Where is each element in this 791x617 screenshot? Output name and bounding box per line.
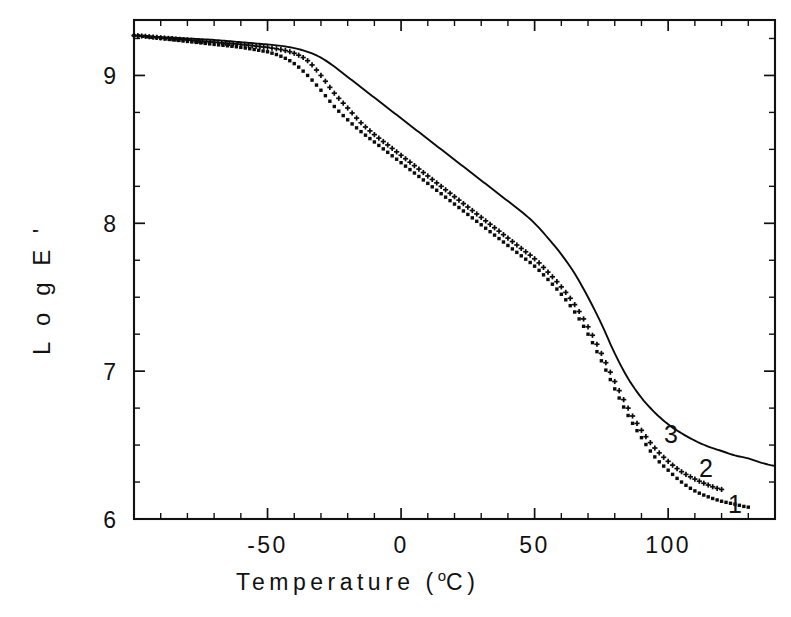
data-point [658, 460, 661, 463]
x-tick-label: 0 [393, 532, 408, 558]
data-point [435, 189, 438, 192]
x-axis-title: Temperature (oC) [236, 567, 479, 595]
y-tick-label: 7 [103, 359, 116, 385]
data-point [693, 489, 696, 492]
data-point [297, 65, 300, 68]
data-point [426, 182, 429, 185]
data-point [439, 192, 442, 195]
curve-path-3 [134, 36, 775, 466]
data-point [506, 244, 509, 247]
data-point [399, 161, 402, 164]
data-point [582, 325, 585, 328]
data-point [702, 493, 705, 496]
data-point [382, 147, 385, 150]
curve-1 [132, 34, 750, 509]
data-point [484, 227, 487, 230]
data-point [649, 449, 652, 452]
data-point [270, 51, 273, 54]
data-point [480, 223, 483, 226]
data-point [475, 220, 478, 223]
x-axis-title-degree: o [438, 567, 446, 584]
data-point [671, 473, 674, 476]
data-point [453, 202, 456, 205]
data-point [680, 480, 683, 483]
data-point [284, 57, 287, 60]
data-point [591, 341, 594, 344]
data-point [742, 505, 745, 508]
data-point [471, 216, 474, 219]
data-point [488, 230, 491, 233]
data-point [404, 164, 407, 167]
data-point [640, 436, 643, 439]
data-point [609, 378, 612, 381]
y-tick-label: 8 [103, 211, 116, 237]
data-point [493, 233, 496, 236]
data-point [466, 213, 469, 216]
data-point [653, 455, 656, 458]
data-point [515, 251, 518, 254]
data-point [328, 100, 331, 103]
y-tick-label: 6 [103, 507, 116, 533]
y-tick-labels: 6789 [103, 63, 116, 533]
data-point [386, 151, 389, 154]
data-point [595, 350, 598, 353]
curve-2 [131, 33, 724, 492]
data-point [502, 240, 505, 243]
data-point [261, 49, 264, 52]
data-point [497, 237, 500, 240]
chart-svg: -50050100 6789 L o g E ' Temperature (oC… [0, 0, 791, 617]
data-point [555, 287, 558, 290]
x-tick-labels: -50050100 [247, 532, 691, 558]
data-point [310, 78, 313, 81]
x-tick-label: -50 [247, 532, 288, 558]
data-point [346, 118, 349, 121]
data-point [618, 396, 621, 399]
data-point [577, 317, 580, 320]
data-point [631, 422, 634, 425]
data-point [720, 500, 723, 503]
data-point [364, 133, 367, 136]
data-point [355, 126, 358, 129]
data-point [542, 273, 545, 276]
data-point [707, 495, 710, 498]
data-point [368, 137, 371, 140]
data-point [551, 282, 554, 285]
data-point [524, 257, 527, 260]
data-point [511, 247, 514, 250]
data-point [395, 158, 398, 161]
plot-frame [134, 20, 775, 519]
data-point [457, 206, 460, 209]
data-point [528, 261, 531, 264]
figure-container: -50050100 6789 L o g E ' Temperature (oC… [0, 0, 791, 617]
data-point [604, 368, 607, 371]
data-point [319, 89, 322, 92]
data-point [675, 477, 678, 480]
data-point [333, 105, 336, 108]
data-point [293, 62, 296, 65]
x-tick-label: 100 [645, 532, 691, 558]
svg-text:Temperature (oC): Temperature (oC) [236, 567, 479, 595]
data-point [359, 130, 362, 133]
data-point [546, 278, 549, 281]
x-axis-title-main: Temperature ( [236, 569, 438, 595]
axis-ticks [134, 20, 775, 519]
data-point [306, 74, 309, 77]
data-point [413, 171, 416, 174]
data-point [684, 484, 687, 487]
data-point [537, 269, 540, 272]
data-point [301, 69, 304, 72]
data-point [520, 254, 523, 257]
data-point [350, 122, 353, 125]
data-curves [131, 33, 775, 509]
data-point [715, 498, 718, 501]
data-point [689, 487, 692, 490]
data-point [324, 94, 327, 97]
data-point [279, 55, 282, 58]
data-point [431, 185, 434, 188]
data-point [662, 464, 665, 467]
x-axis-title-unit: C) [446, 569, 479, 595]
data-point [315, 83, 318, 86]
data-point [462, 209, 465, 212]
y-tick-label: 9 [103, 63, 116, 89]
data-point [569, 304, 572, 307]
